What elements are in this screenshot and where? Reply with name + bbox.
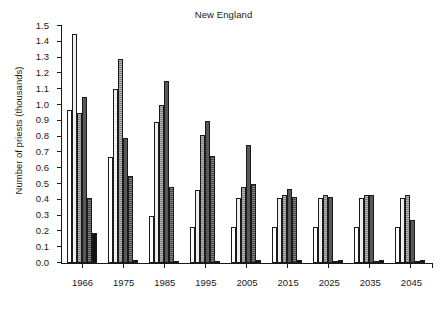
y-tick: 0.6 — [57, 167, 62, 168]
y-tick-label: 1.4 — [19, 35, 49, 46]
x-tick-label: 2015 — [278, 277, 299, 288]
chart-figure: New England Number of priests (thousands… — [0, 0, 447, 315]
y-tick: 0.1 — [57, 246, 62, 247]
bar — [215, 261, 220, 263]
x-tick-label: 2035 — [360, 277, 381, 288]
y-tick: 0.7 — [57, 151, 62, 152]
x-tick: 1995 — [205, 263, 206, 268]
y-tick: 1.0 — [57, 104, 62, 105]
x-tick-label: 1985 — [154, 277, 175, 288]
bar — [210, 156, 215, 263]
bar — [251, 184, 256, 263]
bar-group — [149, 26, 179, 263]
y-tick: 0.5 — [57, 183, 62, 184]
y-tick: 0.3 — [57, 215, 62, 216]
y-tick-label: 1.5 — [19, 20, 49, 31]
y-axis-label: Number of priests (thousands) — [13, 31, 24, 231]
y-tick-label: 0.4 — [19, 193, 49, 204]
x-tick-label: 1995 — [195, 277, 216, 288]
bar-group — [272, 26, 302, 263]
x-tick-label: 2005 — [236, 277, 257, 288]
bar — [328, 197, 333, 263]
y-tick-label: 1.0 — [19, 99, 49, 110]
bar — [256, 260, 261, 263]
y-tick-label: 0.5 — [19, 178, 49, 189]
bar — [174, 261, 179, 263]
y-tick: 0.8 — [57, 136, 62, 137]
bar-group — [395, 26, 425, 263]
bar — [297, 260, 302, 263]
x-tick: 2035 — [369, 263, 370, 268]
x-tick-label: 1966 — [72, 277, 93, 288]
y-tick-label: 1.1 — [19, 83, 49, 94]
x-tick: 1966 — [82, 263, 83, 268]
x-tick: 2045 — [410, 263, 411, 268]
bar — [133, 260, 138, 263]
bar — [369, 195, 374, 263]
bar-group — [108, 26, 138, 263]
bar-group — [67, 26, 97, 263]
y-tick: 1.4 — [57, 41, 62, 42]
bar — [410, 220, 415, 263]
y-tick-label: 0.9 — [19, 114, 49, 125]
bar — [169, 187, 174, 263]
bar-group — [190, 26, 220, 263]
bar-group — [231, 26, 261, 263]
bar — [338, 260, 343, 263]
plot-area: 0.00.10.20.30.40.50.60.70.80.91.01.11.21… — [61, 26, 432, 264]
x-tick-label: 2025 — [319, 277, 340, 288]
x-axis-end-tick — [432, 263, 433, 268]
x-tick: 2015 — [287, 263, 288, 268]
y-tick: 1.3 — [57, 57, 62, 58]
y-tick: 1.1 — [57, 88, 62, 89]
y-tick: 0.2 — [57, 230, 62, 231]
bar — [379, 260, 384, 263]
y-tick-label: 0.3 — [19, 209, 49, 220]
y-tick-label: 0.8 — [19, 130, 49, 141]
y-tick-label: 0.1 — [19, 241, 49, 252]
x-tick: 2005 — [246, 263, 247, 268]
y-tick: 1.5 — [57, 25, 62, 26]
y-tick: 0.9 — [57, 120, 62, 121]
y-tick: 1.2 — [57, 72, 62, 73]
chart-title: New England — [0, 9, 447, 20]
y-tick-label: 0.2 — [19, 225, 49, 236]
y-tick-label: 1.2 — [19, 67, 49, 78]
y-tick-label: 0.0 — [19, 257, 49, 268]
bar — [292, 197, 297, 263]
bar-group — [313, 26, 343, 263]
x-tick-label: 2045 — [401, 277, 422, 288]
y-tick-label: 0.7 — [19, 146, 49, 157]
bar-group — [354, 26, 384, 263]
y-tick-label: 0.6 — [19, 162, 49, 173]
bar — [420, 260, 425, 263]
x-tick-label: 1975 — [113, 277, 134, 288]
x-tick: 2025 — [328, 263, 329, 268]
bar — [92, 233, 97, 263]
y-tick-label: 1.3 — [19, 51, 49, 62]
y-tick: 0.0 — [57, 262, 62, 263]
x-tick: 1985 — [164, 263, 165, 268]
x-tick: 1975 — [123, 263, 124, 268]
y-tick: 0.4 — [57, 199, 62, 200]
bar — [128, 176, 133, 263]
